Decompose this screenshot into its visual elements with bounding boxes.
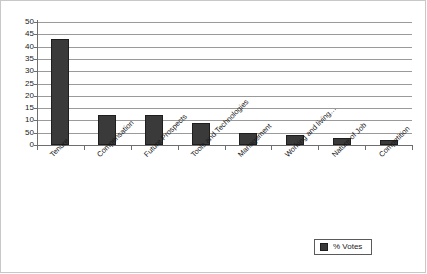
bar[interactable] [51,39,69,145]
chart-legend[interactable]: % Votes [314,239,372,255]
y-axis-labels: 504540353025201510500 [1,1,34,274]
y-tick-label: 25 [25,80,34,88]
chart-frame: 504540353025201510500 TenureCompensation… [0,0,426,273]
y-tick-label: 15 [25,104,34,112]
y-axis-line [37,20,38,147]
gridline [37,84,412,85]
x-tick-mark [271,145,272,150]
y-tick-label: 50 [25,129,34,137]
gridline [37,96,412,97]
legend-label-votes: % Votes [333,243,362,251]
gridline [37,47,412,48]
gridline [37,59,412,60]
gridline [37,22,412,23]
x-tick-mark [318,145,319,150]
x-tick-mark [84,145,85,150]
x-tick-mark [178,145,179,150]
y-tick-label: 45 [25,30,34,38]
x-tick-mark [365,145,366,150]
x-tick-mark [412,145,413,150]
gridline [37,108,412,109]
gridline [37,34,412,35]
x-tick-mark [37,145,38,150]
y-tick-label: 35 [25,55,34,63]
legend-swatch-votes [320,243,328,251]
y-tick-label: 50 [25,18,34,26]
y-tick-label: 40 [25,43,34,51]
y-tick-label: 30 [25,67,34,75]
x-tick-mark [131,145,132,150]
x-tick-mark [225,145,226,150]
y-tick-label: 10 [25,116,34,124]
gridline [37,71,412,72]
y-tick-label: 20 [25,92,34,100]
